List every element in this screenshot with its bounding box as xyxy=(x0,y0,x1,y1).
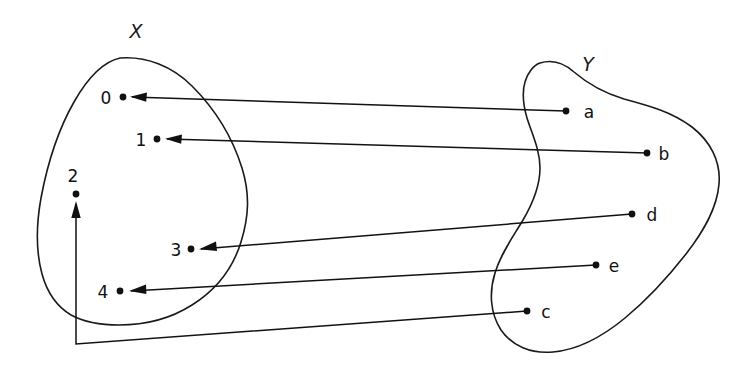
node-dot-y-e xyxy=(593,262,600,269)
node-dot-x-1 xyxy=(154,136,161,143)
node-dot-y-c xyxy=(524,308,531,315)
element-label-y-c: c xyxy=(541,302,550,322)
node-dot-y-b xyxy=(644,150,651,157)
element-label-x-0: 0 xyxy=(101,88,112,108)
mapping-e-to-4 xyxy=(129,265,596,294)
mapping-a-to-0 xyxy=(130,92,566,111)
node-dot-x-0 xyxy=(120,94,127,101)
element-label-y-d: d xyxy=(647,205,658,225)
set-x-title: X xyxy=(128,20,143,42)
mapping-e-to-4-arrowhead xyxy=(129,285,146,294)
node-dot-y-a xyxy=(563,108,570,115)
element-label-x-1: 1 xyxy=(136,130,147,150)
element-label-x-3: 3 xyxy=(171,240,182,260)
node-dot-x-2 xyxy=(73,191,80,198)
mapping-a-to-0-line xyxy=(132,97,566,111)
set-mapping-diagram: X Y 0 1 2 3 4 a b d e c xyxy=(0,0,748,374)
node-dot-x-3 xyxy=(188,246,195,253)
mapping-b-to-1 xyxy=(165,134,647,153)
mapping-a-to-0-arrowhead xyxy=(130,92,147,101)
mapping-d-to-3-line xyxy=(201,214,632,249)
node-dot-y-d xyxy=(629,211,636,218)
set-y-title: Y xyxy=(582,53,595,75)
element-label-x-4: 4 xyxy=(98,282,109,302)
mapping-c-to-2-arrowhead xyxy=(71,201,80,218)
mapping-e-to-4-line xyxy=(131,265,596,291)
element-label-x-2: 2 xyxy=(68,166,79,186)
mapping-b-to-1-arrowhead xyxy=(165,134,182,143)
mapping-d-to-3 xyxy=(199,214,632,251)
mapping-b-to-1-line xyxy=(167,139,647,153)
element-label-y-a: a xyxy=(584,102,594,122)
element-label-y-e: e xyxy=(609,256,619,276)
diagram-canvas: X Y 0 1 2 3 4 a b d e c xyxy=(0,0,748,374)
element-label-y-b: b xyxy=(659,144,670,164)
node-dot-x-4 xyxy=(117,288,124,295)
